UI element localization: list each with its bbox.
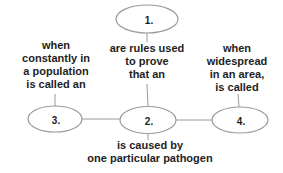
- edge-label-right: when widespread in an area, is called: [187, 42, 283, 94]
- concept-map: 1. 3. 2. 4. when constantly in a populat…: [0, 0, 283, 173]
- edge-label-middle: are rules used to prove that an: [97, 42, 197, 81]
- connector-right-text-node4: [238, 94, 239, 107]
- connector-middle-text-node2: [147, 84, 148, 107]
- node-1-label: 1.: [145, 15, 154, 26]
- node-4-label: 4.: [237, 116, 246, 127]
- edge-label-left: when constantly in a population is calle…: [4, 39, 108, 91]
- node-2-label: 2.: [145, 116, 154, 127]
- edge-label-bottom: is caused by one particular pathogen: [60, 139, 240, 165]
- node-3-label: 3.: [52, 115, 61, 126]
